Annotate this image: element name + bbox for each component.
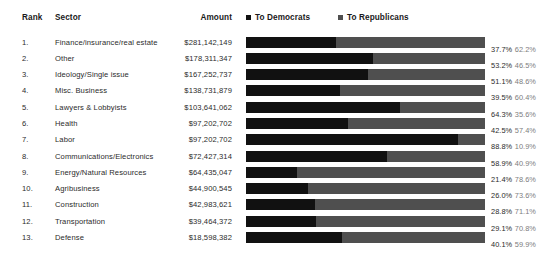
table-row: 10.Agribusiness$44,900,54526.0%73.6% bbox=[0, 183, 556, 199]
cell-amount: $72,427,314 bbox=[142, 152, 232, 161]
bar-segment-democrats bbox=[246, 216, 316, 227]
cell-sector: Lawyers & Lobbyists bbox=[55, 103, 127, 112]
percent-republicans: 59.9% bbox=[515, 240, 536, 249]
bar-segment-democrats bbox=[246, 37, 336, 48]
bar-segment-democrats bbox=[246, 69, 368, 80]
bar-segment-democrats bbox=[246, 183, 308, 194]
bar-segment-republicans bbox=[400, 102, 485, 113]
stacked-bar bbox=[246, 134, 485, 145]
table-row: 2.Other$178,311,34753.2%46.5% bbox=[0, 52, 556, 68]
cell-amount: $39,464,372 bbox=[142, 217, 232, 226]
table-row: 9.Energy/Natural Resources$64,435,04721.… bbox=[0, 166, 556, 182]
cell-sector: Transportation bbox=[55, 217, 105, 226]
cell-amount: $167,252,737 bbox=[142, 70, 232, 79]
cell-sector: Labor bbox=[55, 135, 75, 144]
bar-segment-democrats bbox=[246, 167, 297, 178]
bar-segment-democrats bbox=[246, 199, 315, 210]
cell-rank: 10. bbox=[22, 184, 44, 193]
table-row: 8.Communications/Electronics$72,427,3145… bbox=[0, 150, 556, 166]
stacked-bar bbox=[246, 151, 485, 162]
table-row: 6.Health$97,202,70242.5%57.4% bbox=[0, 117, 556, 133]
cell-amount: $138,731,879 bbox=[142, 86, 232, 95]
cell-amount: $178,311,347 bbox=[142, 54, 232, 63]
square-swatch-icon bbox=[338, 15, 343, 20]
cell-rank: 13. bbox=[22, 233, 44, 242]
bar-segment-republicans bbox=[387, 151, 485, 162]
cell-sector: Communications/Electronics bbox=[55, 152, 153, 161]
cell-sector: Energy/Natural Resources bbox=[55, 168, 146, 177]
cell-sector: Defense bbox=[55, 233, 84, 242]
bar-segment-democrats bbox=[246, 53, 373, 64]
stacked-bar bbox=[246, 216, 485, 227]
bar-segment-republicans bbox=[342, 232, 485, 243]
stacked-bar bbox=[246, 167, 485, 178]
percent-labels: 40.1%59.9% bbox=[491, 233, 555, 251]
bar-segment-republicans bbox=[336, 37, 485, 48]
table-body: 1.Finance/insurance/real estate$281,142,… bbox=[0, 36, 556, 248]
stacked-bar bbox=[246, 69, 485, 80]
cell-amount: $103,641,062 bbox=[142, 103, 232, 112]
legend-item-republicans: To Republicans bbox=[338, 13, 409, 22]
cell-amount: $44,900,545 bbox=[142, 184, 232, 193]
bar-segment-republicans bbox=[373, 53, 484, 64]
bar-segment-republicans bbox=[315, 199, 485, 210]
cell-amount: $64,435,047 bbox=[142, 168, 232, 177]
cell-rank: 11. bbox=[22, 200, 44, 209]
table-row: 3.Ideology/Single issue$167,252,73751.1%… bbox=[0, 69, 556, 85]
table-row: 7.Labor$97,202,70288.8%10.9% bbox=[0, 134, 556, 150]
cell-rank: 7. bbox=[22, 135, 44, 144]
table-row: 4.Misc. Business$138,731,87939.5%60.4% bbox=[0, 85, 556, 101]
contributions-by-sector-chart: Rank Sector Amount To Democrats To Repub… bbox=[0, 0, 556, 258]
cell-rank: 5. bbox=[22, 103, 44, 112]
stacked-bar bbox=[246, 37, 485, 48]
table-row: 5.Lawyers & Lobbyists$103,641,06264.3%35… bbox=[0, 101, 556, 117]
bar-segment-republicans bbox=[316, 216, 485, 227]
cell-amount: $281,142,149 bbox=[142, 38, 232, 47]
table-row: 1.Finance/insurance/real estate$281,142,… bbox=[0, 36, 556, 52]
stacked-bar bbox=[246, 85, 485, 96]
stacked-bar bbox=[246, 102, 485, 113]
column-header-amount: Amount bbox=[152, 13, 232, 22]
cell-rank: 8. bbox=[22, 152, 44, 161]
stacked-bar bbox=[246, 183, 485, 194]
legend-item-democrats: To Democrats bbox=[246, 13, 310, 22]
cell-rank: 1. bbox=[22, 38, 44, 47]
cell-rank: 6. bbox=[22, 119, 44, 128]
cell-sector: Construction bbox=[55, 200, 99, 209]
legend-label-democrats: To Democrats bbox=[255, 13, 310, 22]
column-header-sector: Sector bbox=[55, 13, 81, 22]
table-row: 13.Defense$18,598,38240.1%59.9% bbox=[0, 232, 556, 248]
legend-label-republicans: To Republicans bbox=[347, 13, 409, 22]
bar-segment-democrats bbox=[246, 102, 400, 113]
cell-sector: Health bbox=[55, 119, 78, 128]
bar-segment-democrats bbox=[246, 232, 342, 243]
cell-rank: 4. bbox=[22, 86, 44, 95]
bar-segment-democrats bbox=[246, 85, 340, 96]
cell-sector: Ideology/Single issue bbox=[55, 70, 129, 79]
cell-amount: $97,202,702 bbox=[142, 135, 232, 144]
table-row: 11.Construction$42,983,62128.8%71.1% bbox=[0, 199, 556, 215]
cell-amount: $97,202,702 bbox=[142, 119, 232, 128]
square-swatch-icon bbox=[246, 15, 251, 20]
bar-segment-democrats bbox=[246, 118, 348, 129]
cell-sector: Misc. Business bbox=[55, 86, 107, 95]
cell-rank: 9. bbox=[22, 168, 44, 177]
cell-rank: 3. bbox=[22, 70, 44, 79]
cell-sector: Other bbox=[55, 54, 75, 63]
bar-segment-republicans bbox=[368, 69, 484, 80]
percent-democrats: 40.1% bbox=[491, 240, 512, 249]
bar-segment-republicans bbox=[308, 183, 484, 194]
stacked-bar bbox=[246, 53, 485, 64]
stacked-bar bbox=[246, 199, 485, 210]
table-row: 12.Transportation$39,464,37229.1%70.8% bbox=[0, 215, 556, 231]
cell-amount: $18,598,382 bbox=[142, 233, 232, 242]
column-header-rank: Rank bbox=[22, 13, 42, 22]
stacked-bar bbox=[246, 118, 485, 129]
cell-rank: 2. bbox=[22, 54, 44, 63]
bar-segment-republicans bbox=[340, 85, 484, 96]
bar-segment-republicans bbox=[348, 118, 485, 129]
bar-segment-republicans bbox=[297, 167, 485, 178]
stacked-bar bbox=[246, 232, 485, 243]
cell-amount: $42,983,621 bbox=[142, 200, 232, 209]
bar-segment-republicans bbox=[458, 134, 484, 145]
